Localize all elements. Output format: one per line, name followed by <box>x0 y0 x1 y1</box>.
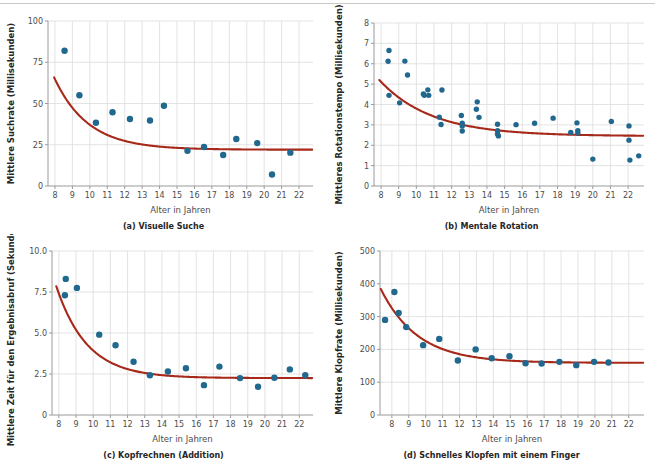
data-point <box>436 336 442 342</box>
data-point <box>161 103 167 109</box>
data-point <box>93 120 99 126</box>
data-point <box>216 363 222 369</box>
data-point <box>402 58 407 63</box>
y-tick-label: 5.0 <box>34 329 47 338</box>
x-tick-label: 11 <box>438 420 448 429</box>
x-tick-label: 8 <box>52 191 57 200</box>
data-point <box>271 375 277 381</box>
x-tick-label: 17 <box>539 420 549 429</box>
data-point <box>382 317 388 323</box>
x-tick-label: 20 <box>259 191 269 200</box>
x-tick-label: 16 <box>191 420 201 429</box>
data-point <box>127 116 133 122</box>
data-point <box>425 87 430 92</box>
y-axis-label: Mittlere Klopfrate (Millisekunden) <box>334 251 344 414</box>
data-point <box>220 152 226 158</box>
data-point <box>506 353 512 359</box>
data-point <box>439 87 444 92</box>
x-tick-label: 20 <box>260 420 270 429</box>
data-point <box>130 359 136 365</box>
data-point <box>495 122 500 127</box>
x-tick-label: 11 <box>102 191 112 200</box>
data-point <box>74 285 80 291</box>
x-tick-label: 11 <box>105 420 115 429</box>
x-tick-label: 12 <box>447 191 457 200</box>
trend-line <box>379 80 643 136</box>
x-tick-label: 10 <box>85 191 95 200</box>
data-point <box>386 93 391 98</box>
subplot-caption: (a) Visuelle Suche <box>123 222 205 231</box>
x-tick-label: 19 <box>573 420 583 429</box>
y-axis-label: Mittlere Suchrate (Millisekunden) <box>6 23 16 185</box>
x-tick-label: 14 <box>157 420 167 429</box>
figure-panel-grid: 02550751008910111213141516171819202122Mi… <box>0 5 655 464</box>
y-tick-label: 5 <box>364 80 369 89</box>
data-point <box>405 72 410 77</box>
data-point <box>184 148 190 154</box>
data-point <box>590 156 595 161</box>
data-point <box>395 310 401 316</box>
data-point <box>556 359 562 365</box>
x-tick-label: 15 <box>174 420 184 429</box>
y-axis-ticks: 0255075100 <box>28 17 48 191</box>
data-point <box>112 342 118 348</box>
data-point <box>591 359 597 365</box>
data-point <box>574 120 579 125</box>
data-points <box>382 289 612 369</box>
data-point <box>459 113 464 118</box>
x-axis-label: Alter in Jahren <box>479 205 539 215</box>
data-point <box>438 122 443 127</box>
x-tick-label: 19 <box>243 420 253 429</box>
data-point <box>475 99 480 104</box>
data-point <box>437 114 442 119</box>
x-tick-label: 18 <box>224 191 234 200</box>
y-tick-label: 6 <box>364 60 369 69</box>
data-point <box>397 100 402 105</box>
y-tick-label: 0 <box>370 411 375 420</box>
y-tick-label: 0 <box>42 411 47 420</box>
trend-line <box>54 77 312 149</box>
x-tick-label: 13 <box>471 420 481 429</box>
y-tick-label: 75 <box>33 58 43 67</box>
data-point <box>109 109 115 115</box>
x-tick-label: 9 <box>73 420 78 429</box>
data-point <box>391 289 397 295</box>
subplot-c-kopfrechnen: 02.55.07.510.089101112131415161718192021… <box>0 234 327 464</box>
data-point <box>403 324 409 330</box>
x-tick-label: 17 <box>535 191 545 200</box>
data-point <box>496 133 501 138</box>
data-point <box>420 342 426 348</box>
data-point <box>472 346 478 352</box>
y-axis-ticks: 0100200300400500 <box>360 247 380 420</box>
x-tick-label: 18 <box>556 420 566 429</box>
x-tick-label: 13 <box>137 191 147 200</box>
grid-lines <box>374 23 644 186</box>
data-point <box>96 331 102 337</box>
x-tick-label: 19 <box>570 191 580 200</box>
x-tick-label: 22 <box>623 191 633 200</box>
data-point <box>147 372 153 378</box>
y-tick-label: 1 <box>364 162 369 171</box>
x-axis-label: Alter in Jahren <box>482 434 542 444</box>
x-axis-ticks: 8910111213141516171819202122 <box>56 415 304 429</box>
trend-line <box>381 289 643 363</box>
data-point <box>455 357 461 363</box>
x-tick-label: 22 <box>294 420 304 429</box>
x-tick-label: 20 <box>588 191 598 200</box>
y-tick-label: 25 <box>33 141 43 150</box>
data-point <box>474 106 479 111</box>
data-point <box>460 128 465 133</box>
subplot-a-visuelle-suche: 02550751008910111213141516171819202122Mi… <box>0 5 327 235</box>
x-tick-label: 10 <box>88 420 98 429</box>
x-tick-label: 16 <box>522 420 532 429</box>
data-point <box>62 292 68 298</box>
grid-lines <box>48 21 313 186</box>
data-point <box>269 171 275 177</box>
data-point <box>532 121 537 126</box>
data-point <box>605 359 611 365</box>
x-tick-label: 10 <box>421 420 431 429</box>
data-point <box>201 144 207 150</box>
y-tick-label: 0 <box>38 182 43 191</box>
data-point <box>460 123 465 128</box>
x-tick-label: 22 <box>624 420 634 429</box>
